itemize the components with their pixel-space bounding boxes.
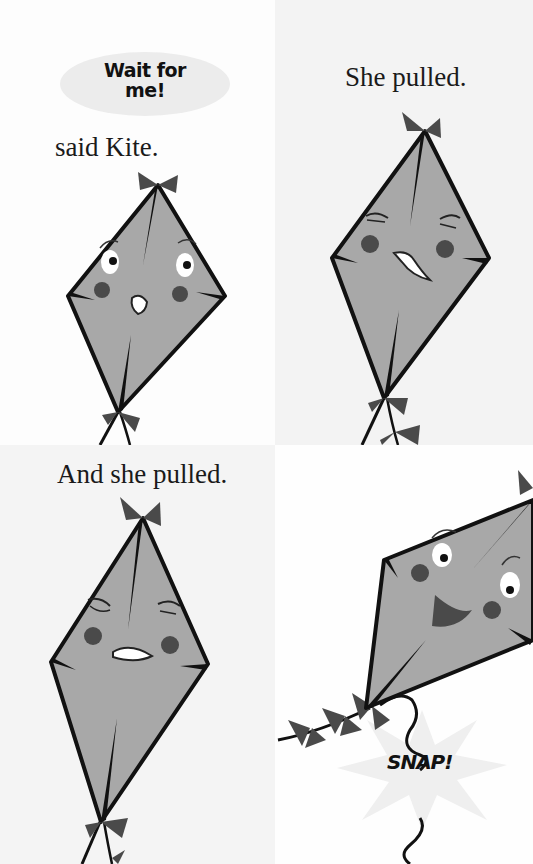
kite-character-straining-hard: [0, 445, 275, 864]
panel-top-left: Wait for me! said Kite.: [0, 0, 275, 445]
kite-body: [68, 185, 225, 412]
kite-character-straining: [275, 0, 533, 445]
kite-body: [51, 518, 208, 822]
panel-bottom-left: And she pulled.: [0, 445, 275, 864]
kite-character-surprised: [0, 0, 275, 445]
bow-bottom: [368, 398, 420, 445]
bow-top: [518, 470, 533, 495]
kite-character-happy: [275, 445, 533, 864]
kite-body: [366, 500, 533, 708]
panel-bottom-right: SNAP!: [275, 445, 533, 864]
panel-top-right: She pulled.: [275, 0, 533, 445]
